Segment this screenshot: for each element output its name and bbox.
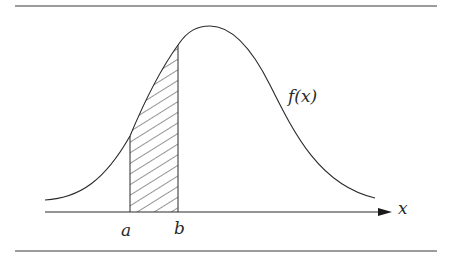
label-fx: f(x) (288, 88, 317, 105)
label-x-axis: x (398, 200, 408, 217)
figure: a b f(x) x (0, 0, 450, 262)
label-b: b (174, 220, 185, 237)
label-a: a (121, 222, 131, 239)
diagram-canvas (0, 0, 450, 262)
density-curve (45, 26, 375, 200)
x-axis-arrow-icon (378, 208, 392, 216)
